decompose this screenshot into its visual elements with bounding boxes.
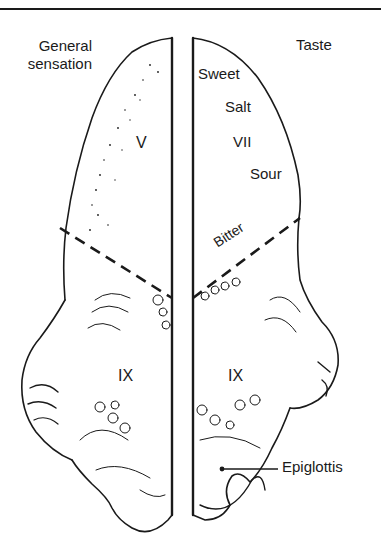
right-boundary-dashed-line: [193, 218, 300, 298]
nerve-label-ix-left: IX: [118, 367, 133, 385]
left-posterior-outline: [72, 460, 172, 532]
taste-zone-sour: Sour: [250, 165, 282, 183]
heading-general-line-2: sensation: [16, 55, 92, 73]
label-epiglottis: Epiglottis: [282, 458, 343, 476]
left-boundary-dashed-line: [60, 228, 172, 298]
taste-zone-sweet: Sweet: [198, 65, 240, 83]
nerve-label-v: V: [136, 134, 147, 152]
epiglottis-outline: [200, 477, 265, 509]
right-tongue-half: [193, 38, 338, 520]
right-lateral-outline: [290, 218, 338, 408]
nerve-label-vii: VII: [233, 133, 251, 151]
left-lateral-outline: [22, 300, 72, 460]
heading-general-sensation: General sensation: [16, 37, 92, 73]
right-posterior-outline: [193, 408, 290, 520]
left-anterior-outline: [64, 38, 172, 300]
heading-taste: Taste: [296, 36, 332, 54]
left-tongue-half: [22, 38, 172, 532]
epiglottis-pointer: [220, 467, 278, 472]
heading-general-line-1: General: [16, 37, 92, 55]
nerve-label-ix-right: IX: [228, 367, 243, 385]
left-stipple-shading: [89, 64, 159, 231]
taste-zone-salt: Salt: [225, 98, 251, 116]
anterior-posterior-boundary: [60, 218, 300, 298]
